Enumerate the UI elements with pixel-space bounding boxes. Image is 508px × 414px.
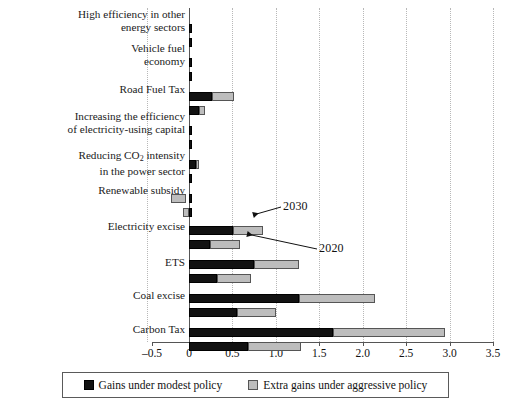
bar-dark-increasing-the-efficiency-of-electricity-using-capital-2030 xyxy=(189,126,192,135)
bar-light-road-fuel-tax-2030 xyxy=(212,92,235,101)
bar-light-ets-2030 xyxy=(254,260,299,269)
category-label-line: Carbon Tax xyxy=(4,323,185,336)
category-label-renewable-subsidy: Renewable subsidy xyxy=(4,184,185,197)
category-label-line: Coal excise xyxy=(4,289,185,302)
xtick-label-4: 1.5 xyxy=(299,347,339,359)
chart-root: –0.5 0 0.5 1.0 1.5 2.0 2.5 3.0 3.5 High … xyxy=(0,0,508,414)
bar-light-coal-excise-2030 xyxy=(299,294,375,303)
gridline-3.5 xyxy=(493,8,495,342)
bar-dark-renewable-subsidy-2020 xyxy=(189,208,192,217)
category-label-line: of electricity-using capital xyxy=(4,123,185,136)
tick-2.0 xyxy=(363,342,364,346)
xtick-label-5: 2.0 xyxy=(343,347,383,359)
annotation-label-2020: 2020 xyxy=(319,241,344,256)
bar-dark-high-efficiency-in-other-energy-sectors-2020 xyxy=(189,38,192,47)
annotation-label-2030: 2030 xyxy=(283,199,308,214)
xtick-label-8: 3.5 xyxy=(473,347,508,359)
bar-light-electricity-excise-2020 xyxy=(210,240,240,249)
category-label-vehicle-fuel-economy: Vehicle fuel economy xyxy=(4,42,185,67)
bar-light-carbon-tax-2030 xyxy=(333,328,445,337)
category-label-coal-excise: Coal excise xyxy=(4,289,185,302)
xtick-label-0: –0.5 xyxy=(132,347,172,359)
bar-dark-high-efficiency-in-other-energy-sectors-2030 xyxy=(189,24,192,33)
bar-dark-ets-2020 xyxy=(189,274,217,283)
tick-3.0 xyxy=(450,342,451,346)
category-label-line: economy xyxy=(4,55,185,68)
gridline-1.0 xyxy=(276,8,278,342)
tick-3.5 xyxy=(493,342,494,346)
legend-item-aggressive: Extra gains under aggressive policy xyxy=(248,379,427,391)
category-label-electricity-excise: Electricity excise xyxy=(4,220,185,233)
bar-dark-carbon-tax-2020 xyxy=(189,342,248,351)
bar-dark-carbon-tax-2030 xyxy=(189,328,333,337)
category-label-line: ETS xyxy=(4,256,185,269)
category-label-carbon-tax: Carbon Tax xyxy=(4,323,185,336)
xtick-label-6: 2.5 xyxy=(386,347,426,359)
gridline-1.5 xyxy=(319,8,321,342)
category-label-line: Electricity excise xyxy=(4,220,185,233)
bar-dark-reducing-co-intensity-in-the-power-sector-2030 xyxy=(189,160,196,169)
category-label-road-fuel-tax: Road Fuel Tax xyxy=(4,83,185,96)
bar-light-ets-2020 xyxy=(217,274,251,283)
legend-swatch-dark-icon xyxy=(84,380,94,390)
gridline-0.5 xyxy=(232,8,234,342)
category-label-reducing-co2-intensity-power-sector: Reducing CO2 intensity in the power sect… xyxy=(4,149,185,178)
bar-dark-vehicle-fuel-economy-2020 xyxy=(189,72,192,81)
bar-dark-vehicle-fuel-economy-2030 xyxy=(189,58,192,67)
category-label-line: in the power sector xyxy=(4,165,185,178)
bar-light-road-fuel-tax-2020 xyxy=(199,106,206,115)
legend-label-aggressive: Extra gains under aggressive policy xyxy=(263,379,427,391)
category-label-line: Increasing the efficiency xyxy=(4,110,185,123)
bar-light-coal-excise-2020 xyxy=(237,308,276,317)
bar-dark-increasing-the-efficiency-of-electricity-using-capital-2020 xyxy=(189,140,192,149)
bar-dark-ets-2030 xyxy=(189,260,254,269)
category-label-increasing-efficiency-electricity-capital: Increasing the efficiency of electricity… xyxy=(4,110,185,135)
legend-swatch-light-icon xyxy=(248,380,258,390)
arrow-2020 xyxy=(247,234,317,249)
bar-dark-road-fuel-tax-2020 xyxy=(189,106,199,115)
tick--0.5 xyxy=(152,342,153,346)
legend-label-modest: Gains under modest policy xyxy=(99,379,223,391)
tick-2.5 xyxy=(406,342,407,346)
category-label-line: Vehicle fuel xyxy=(4,42,185,55)
xtick-label-7: 3.0 xyxy=(430,347,470,359)
category-label-high-efficiency-other-energy: High efficiency in other energy sectors xyxy=(4,8,185,33)
legend-item-modest: Gains under modest policy xyxy=(84,379,223,391)
bar-light-electricity-excise-2030 xyxy=(233,226,263,235)
category-label-line: Renewable subsidy xyxy=(4,184,185,197)
gridline-2.5 xyxy=(406,8,408,342)
legend: Gains under modest policy Extra gains un… xyxy=(62,372,449,398)
bar-dark-electricity-excise-2020 xyxy=(189,240,210,249)
bar-dark-electricity-excise-2030 xyxy=(189,226,233,235)
category-label-ets: ETS xyxy=(4,256,185,269)
bar-dark-road-fuel-tax-2030 xyxy=(189,92,212,101)
gridline-3.0 xyxy=(450,8,452,342)
tick-1.5 xyxy=(319,342,320,346)
category-label-line: energy sectors xyxy=(4,21,185,34)
bar-dark-renewable-subsidy-2030 xyxy=(189,194,192,203)
bar-light-reducing-co-intensity-in-the-power-sector-2030 xyxy=(196,160,199,169)
category-label-line: Reducing CO2 intensity xyxy=(4,149,185,165)
category-label-line: High efficiency in other xyxy=(4,8,185,21)
bar-light-renewable-subsidy-2030 xyxy=(171,194,187,203)
bar-dark-coal-excise-2030 xyxy=(189,294,299,303)
bar-light-carbon-tax-2020 xyxy=(248,342,301,351)
gridline-2.0 xyxy=(363,8,365,342)
bar-dark-reducing-co-intensity-in-the-power-sector-2020 xyxy=(189,174,192,183)
category-label-line: Road Fuel Tax xyxy=(4,83,185,96)
bar-dark-coal-excise-2020 xyxy=(189,308,237,317)
